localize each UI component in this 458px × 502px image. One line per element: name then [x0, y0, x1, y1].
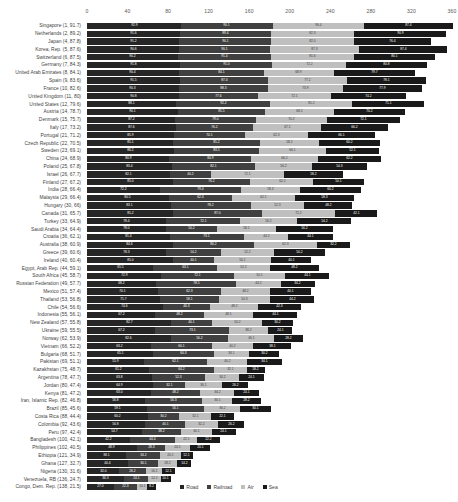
- segment-value-label: 67.1: [284, 126, 290, 129]
- category-label: Finland (27, 67.2): [0, 178, 84, 186]
- legend-label: Air: [247, 484, 253, 490]
- segment-value-label: 88.1: [129, 102, 135, 105]
- category-label: New Zealand (57, 55.8): [0, 319, 84, 327]
- bar-segment-road: 71.7: [87, 296, 160, 302]
- category-label: Croatia (36, 62.1): [0, 233, 84, 241]
- stacked-bar: 72.279.458.360.2: [87, 187, 361, 193]
- segment-value-label: 26.2: [232, 384, 238, 387]
- segment-value-label: 24.1: [221, 431, 227, 434]
- segment-value-label: 28.3: [148, 446, 154, 449]
- segment-value-label: 85.2: [213, 142, 219, 145]
- category-label: Jordan (80, 47.4): [0, 381, 84, 389]
- segment-value-label: 58.3: [321, 196, 327, 199]
- bar-segment-sea: 14.2: [177, 460, 191, 466]
- legend-item[interactable]: Sea: [263, 484, 278, 490]
- segment-value-label: 85.9: [127, 134, 133, 137]
- segment-value-label: 24.1: [243, 392, 249, 395]
- segment-value-label: 85.0: [127, 181, 133, 184]
- segment-value-label: 90.4: [130, 71, 136, 74]
- segment-value-label: 40.1: [162, 423, 168, 426]
- segment-value-label: 46.3: [183, 306, 189, 309]
- segment-value-label: 24.2: [174, 446, 180, 449]
- bar-segment-road: 85.1: [87, 140, 173, 146]
- stacked-bar: 63.852.334.224.1: [87, 374, 264, 380]
- stacked-bar: 82.740.150.230.2: [87, 320, 293, 326]
- category-label: Turkey (33, 64.9): [0, 217, 84, 225]
- bar-segment-air: 36.1: [185, 382, 222, 388]
- segment-value-label: 81.2: [308, 102, 314, 105]
- category-label: Peru (97, 42.4): [0, 428, 84, 436]
- legend-item[interactable]: Road: [180, 484, 198, 490]
- bar-segment-sea: 40.1: [270, 288, 311, 294]
- stacked-bar-chart: 04080120160200240280320360 Singapore (1,…: [0, 0, 458, 502]
- bar-segment-sea: 34.1: [247, 359, 282, 365]
- legend-item[interactable]: Railroad: [207, 484, 232, 490]
- chart-row: Pakistan (69, 51.1)55.962.140.234.1: [0, 358, 458, 366]
- segment-value-label: 52.2: [245, 251, 251, 254]
- segment-value-label: 60.2: [327, 188, 333, 191]
- bar-segment-sea: 48.2: [304, 202, 353, 208]
- stacked-bar: 85.287.072.242.1: [87, 210, 377, 216]
- segment-value-label: 72.1: [244, 173, 250, 176]
- segment-value-label: 58.2: [286, 142, 292, 145]
- stacked-bar: 64.932.136.126.2: [87, 382, 248, 388]
- category-label: France (10, 82.6): [0, 85, 84, 93]
- bar-segment-railroad: 70.1: [174, 132, 245, 138]
- chart-row: Poland (25, 67.8)83.482.156.254.3: [0, 163, 458, 171]
- category-label: Czech Republic (22, 70.5): [0, 139, 84, 147]
- segment-value-label: 77.6: [215, 95, 221, 98]
- stacked-bar: 74.646.348.242.3: [87, 304, 301, 310]
- segment-value-label: 30.2: [275, 321, 281, 324]
- segment-value-label: 79.0: [212, 118, 218, 121]
- segment-value-label: 50.1: [336, 181, 342, 184]
- segment-value-label: 38.2: [159, 431, 165, 434]
- bar-segment-air: 48.1: [204, 312, 253, 318]
- category-label: United States (12, 79.6): [0, 100, 84, 108]
- category-label: Ethiopia (121, 34.9): [0, 452, 84, 460]
- legend-swatch-icon: [180, 485, 184, 489]
- bar-segment-railroad: 48.2: [155, 312, 204, 318]
- bar-segment-road: 65.5: [87, 265, 153, 271]
- bar-segment-air: 62.2: [250, 179, 313, 185]
- segment-value-label: 34.1: [228, 352, 234, 355]
- segment-value-label: 91.8: [130, 63, 136, 66]
- bar-segment-road: 56.8: [87, 421, 145, 427]
- segment-value-label: 60.3: [180, 352, 186, 355]
- category-label: Netherlands (2, 89.2): [0, 30, 84, 38]
- segment-value-label: 56.2: [196, 337, 202, 340]
- bar-segment-sea: 44.1: [288, 234, 333, 240]
- segment-value-label: 62.3: [274, 134, 280, 137]
- bar-segment-sea: 60.2: [319, 140, 380, 146]
- bar-segment-railroad: 90.1: [179, 38, 270, 44]
- bar-segment-road: 55.9: [87, 359, 144, 365]
- bar-segment-air: 56.1: [214, 257, 271, 263]
- segment-value-label: 78.0: [123, 227, 129, 230]
- bar-segment-railroad: 30.2: [148, 413, 179, 419]
- segment-value-label: 92.9: [131, 24, 137, 27]
- bar-segment-air: 50.3: [219, 296, 270, 302]
- bar-segment-railroad: 73.1: [155, 327, 229, 333]
- bar-segment-road: 48.9: [87, 445, 137, 451]
- stacked-bar: 92.990.190.487.4: [87, 23, 453, 29]
- category-label: Philippines (102, 40.5): [0, 444, 84, 452]
- stacked-bar: 61.264.232.118.2: [87, 367, 265, 373]
- segment-value-label: 50.2: [188, 227, 194, 230]
- segment-value-label: 44.1: [272, 313, 278, 316]
- segment-value-label: 70.1: [119, 290, 125, 293]
- bar-segment-sea: 24.1: [268, 327, 292, 333]
- bar-segment-sea: 26.2: [218, 421, 245, 427]
- chart-row: Iran, Islamic Rep. (82, 46.8)56.856.330.…: [0, 397, 458, 405]
- chart-row: Mexico (51, 57.4)70.162.348.240.1: [0, 288, 458, 296]
- chart-row: India (28, 66.4)72.279.458.360.2: [0, 186, 458, 194]
- bar-segment-sea: 28.2: [274, 335, 303, 341]
- chart-row: France (10, 82.6)90.388.373.977.9: [0, 85, 458, 93]
- segment-value-label: 32.2: [330, 243, 336, 246]
- segment-value-label: 90.3: [130, 87, 136, 90]
- chart-row: Philippines (102, 40.5)48.928.324.220.1: [0, 444, 458, 452]
- legend-item[interactable]: Air: [241, 484, 253, 490]
- bar-segment-road: 78.3: [87, 249, 166, 255]
- category-label: Brazil (85, 45.6): [0, 405, 84, 413]
- segment-value-label: 30.1: [253, 407, 259, 410]
- chart-row: Canada (31, 65.7)85.287.072.242.1: [0, 210, 458, 218]
- chart-row: Chile (54, 56.6)74.646.348.242.3: [0, 303, 458, 311]
